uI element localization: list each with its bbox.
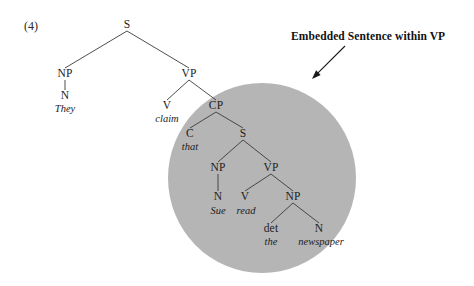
tree-node-np-subj: NP	[57, 68, 72, 80]
tree-node-c: C	[186, 128, 194, 140]
tree-word-sue: Sue	[210, 206, 225, 217]
tree-node-n-emb: N	[214, 191, 223, 203]
embedded-sentence-annotation: Embedded Sentence within VP	[291, 30, 445, 43]
annotation-arrow	[312, 46, 345, 79]
tree-branch	[127, 31, 189, 68]
tree-node-n-subj: N	[61, 90, 70, 102]
tree-node-v-main: V	[163, 100, 172, 112]
tree-node-np-emb: NP	[210, 162, 225, 174]
tree-node-np-obj: NP	[285, 191, 300, 203]
tree-node-n-obj: N	[315, 223, 324, 235]
tree-node-s-emb: S	[240, 128, 247, 140]
tree-node-vp-main: VP	[181, 68, 196, 80]
tree-node-s-root: S	[124, 19, 131, 31]
tree-word-the: the	[265, 237, 278, 248]
tree-node-v-emb: V	[241, 191, 250, 203]
tree-word-that: that	[182, 142, 198, 153]
figure-canvas: (4) Embedded Sentence within VP SNPNVPVC…	[0, 0, 474, 286]
tree-word-claim: claim	[155, 114, 178, 125]
annotation-arrow-line	[316, 46, 345, 75]
tree-node-vp-emb: VP	[263, 162, 278, 174]
tree-word-read: read	[237, 206, 256, 217]
example-number-label: (4)	[24, 20, 38, 32]
tree-branch	[65, 31, 127, 68]
tree-word-they: They	[55, 104, 75, 115]
tree-node-cp: CP	[209, 100, 223, 112]
tree-word-newspaper: newspaper	[298, 237, 344, 248]
tree-node-det: det	[264, 223, 279, 235]
tree-branch	[167, 80, 189, 100]
tree-branch	[189, 80, 216, 100]
